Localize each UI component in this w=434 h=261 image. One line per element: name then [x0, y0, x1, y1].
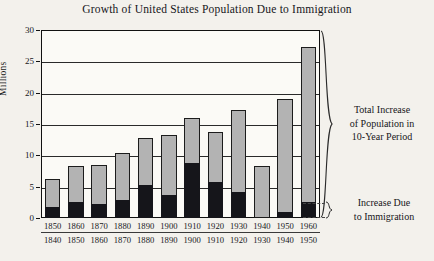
y-axis-tick-mark [36, 155, 40, 156]
total-increase-line-1: Total Increase [354, 104, 410, 115]
decade-start-label: 1900 [181, 233, 204, 245]
y-axis-tick-mark [36, 30, 40, 31]
decade-end-label: 1870 [88, 221, 111, 233]
decade-start-label: 1940 [274, 233, 297, 245]
decade-end-label: 1930 [227, 221, 250, 233]
bar [301, 47, 316, 218]
immigration-leader-top [303, 203, 325, 204]
y-axis-tick: 15 [8, 120, 34, 129]
total-increase-annotation: Total Increase of Population in 10-Year … [330, 103, 434, 144]
y-axis-tick: 25 [8, 57, 34, 66]
decade-end-label: 1850 [41, 221, 64, 233]
decade-start-label: 1860 [88, 233, 111, 245]
bar [161, 135, 176, 218]
immigration-line-1: Increase Due [358, 197, 410, 208]
x-axis-label: 18701860 [88, 221, 111, 245]
bar [277, 99, 292, 218]
decade-start-label: 1840 [41, 233, 64, 245]
bar [91, 165, 106, 218]
decade-end-label: 1940 [250, 221, 273, 233]
x-axis-label: 18801870 [111, 221, 134, 245]
immigration-leader-bottom [303, 217, 325, 218]
bar [138, 138, 153, 218]
decade-start-label: 1950 [297, 233, 320, 245]
decade-start-label: 1880 [134, 233, 157, 245]
bar-immigration-segment [277, 212, 292, 218]
y-axis-tick: 20 [8, 89, 34, 98]
decade-end-label: 1950 [274, 221, 297, 233]
decade-end-label: 1890 [134, 221, 157, 233]
decade-end-label: 1860 [64, 221, 87, 233]
bar-immigration-segment [138, 185, 153, 218]
y-axis-tick: 0 [8, 214, 34, 223]
immigration-brace [324, 201, 333, 219]
bars-layer [41, 30, 320, 218]
x-axis-label: 19001890 [157, 221, 180, 245]
bar [208, 132, 223, 218]
decade-end-label: 1920 [204, 221, 227, 233]
bar-immigration-segment [161, 195, 176, 218]
y-axis-title: Millions [0, 61, 8, 96]
y-axis-tick-mark [36, 93, 40, 94]
bar-immigration-segment [45, 207, 60, 218]
bar [231, 110, 246, 218]
bar-immigration-segment [115, 200, 130, 218]
immigration-line-2: to Immigration [354, 211, 414, 222]
total-increase-line-3: 10-Year Period [352, 131, 412, 142]
x-axis-label: 18601850 [64, 221, 87, 245]
y-axis-tick: 5 [8, 183, 34, 192]
y-axis-tick-mark [36, 124, 40, 125]
decade-end-label: 1880 [111, 221, 134, 233]
bar-immigration-segment [184, 163, 199, 218]
y-axis-tick-mark [36, 61, 40, 62]
decade-end-label: 1910 [181, 221, 204, 233]
bar [115, 153, 130, 218]
immigration-annotation: Increase Due to Immigration [334, 196, 434, 223]
chart-title: Growth of United States Population Due t… [0, 3, 434, 15]
immigration-growth-chart: Growth of United States Population Due t… [0, 0, 434, 261]
x-axis-labels: 1850184018601850187018601880187018901880… [41, 221, 320, 257]
decade-start-label: 1930 [250, 233, 273, 245]
decade-start-label: 1870 [111, 233, 134, 245]
x-axis-label: 18901880 [134, 221, 157, 245]
y-axis-tick: 10 [8, 151, 34, 160]
x-axis-label: 19101900 [181, 221, 204, 245]
decade-end-label: 1900 [157, 221, 180, 233]
x-axis-label: 19401930 [250, 221, 273, 245]
bar-immigration-segment [68, 202, 83, 218]
x-axis-label: 19501940 [274, 221, 297, 245]
bar [45, 179, 60, 218]
decade-start-label: 1910 [204, 233, 227, 245]
decade-start-label: 1890 [157, 233, 180, 245]
total-increase-line-2: of Population in [350, 118, 414, 129]
y-axis-tick-mark [36, 187, 40, 188]
bar [68, 166, 83, 218]
bar-immigration-segment [208, 182, 223, 218]
decade-start-label: 1920 [227, 233, 250, 245]
bar [254, 166, 269, 218]
x-axis-label: 18501840 [41, 221, 64, 245]
bar [184, 118, 199, 218]
bar-immigration-segment [301, 202, 316, 218]
decade-start-label: 1850 [64, 233, 87, 245]
decade-end-label: 1960 [297, 221, 320, 233]
y-axis-tick: 30 [8, 26, 34, 35]
x-axis-label: 19201910 [204, 221, 227, 245]
y-axis-tick-mark [36, 218, 40, 219]
bar-immigration-segment [91, 204, 106, 218]
x-axis-label: 19601950 [297, 221, 320, 245]
x-axis-label: 19301920 [227, 221, 250, 245]
bar-immigration-segment [231, 192, 246, 218]
